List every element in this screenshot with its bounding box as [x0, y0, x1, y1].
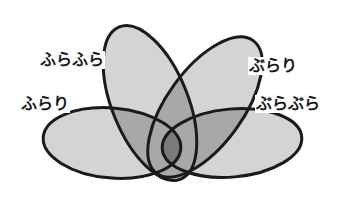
label-furari: ふらり — [20, 95, 70, 113]
label-burabura: ぶらぶら — [255, 95, 321, 113]
label-burari: ぶらり — [248, 57, 298, 75]
label-furafura: ふらふら — [39, 51, 105, 69]
